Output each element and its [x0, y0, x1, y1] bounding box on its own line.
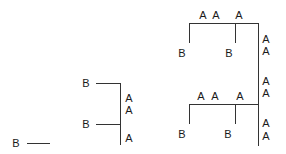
label-a-top-2: A [212, 10, 219, 21]
label-a-top-1: A [199, 10, 206, 21]
label-b-left-bottom: B [12, 138, 19, 149]
diagram-lines [0, 0, 286, 154]
label-a-right-1: A [262, 34, 269, 45]
label-a-top-3: A [235, 10, 242, 21]
label-b-low-right: B [224, 129, 231, 140]
label-a-right-6: A [262, 131, 269, 142]
label-b-top-right: B [225, 48, 232, 59]
label-b-top-left: B [178, 48, 185, 59]
label-b-mid-top: B [82, 78, 89, 89]
label-a-mid-3: A [125, 133, 132, 144]
label-a-mid-2: A [125, 105, 132, 116]
label-b-low-left: B [178, 129, 185, 140]
label-a-right-5: A [262, 118, 269, 129]
label-a-mid-1: A [125, 93, 132, 104]
label-a-right-3: A [262, 76, 269, 87]
label-a-low-2: A [211, 91, 218, 102]
label-a-low-3: A [236, 91, 243, 102]
label-b-mid-bottom: B [82, 119, 89, 130]
label-a-right-2: A [262, 46, 269, 57]
label-a-low-1: A [197, 91, 204, 102]
label-a-right-4: A [262, 88, 269, 99]
